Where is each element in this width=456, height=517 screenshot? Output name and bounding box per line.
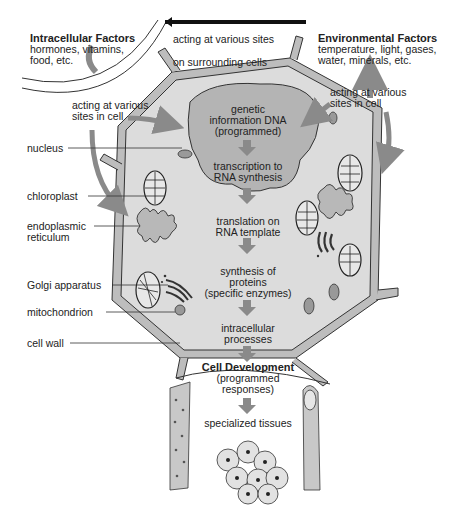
label-chloroplast: chloroplast: [27, 191, 78, 202]
step-synthesis-line3: (specific enzymes): [205, 288, 292, 299]
chloroplast-right-2: [296, 201, 318, 235]
top-arrow: [165, 17, 306, 27]
parenchyma-cells: [217, 441, 288, 504]
right-arrow-down: [386, 112, 389, 160]
label-nucleus: nucleus: [27, 143, 63, 154]
elongated-tissue-left: [170, 382, 190, 490]
step-dna-line3: (programmed): [215, 126, 282, 137]
wall-extension-topright: [290, 36, 303, 60]
chloroplast-lower-left: [136, 272, 160, 308]
mitochondrion-right-2: [329, 284, 339, 300]
mitochondrion-left: [175, 305, 185, 315]
mitochondrion-right-1: [329, 112, 337, 124]
flow-arrow-6: [238, 398, 256, 414]
top-arrow-label-below: on surrounding cells: [173, 57, 267, 68]
elongated-tissue-right: [303, 385, 320, 490]
chloroplast-right: [338, 155, 362, 191]
label-mitochondrion: mitochondrion: [27, 307, 93, 318]
label-golgi: Golgi apparatus: [27, 280, 101, 291]
mitochondrion-right-3: [304, 298, 314, 314]
intracellular-factors-line2: food, etc.: [30, 55, 73, 66]
wall-extension-right: [376, 288, 398, 300]
specialized-tissues-label: specialized tissues: [204, 418, 292, 429]
mitochondrion-top: [178, 150, 192, 158]
chloroplast-right-3: [339, 244, 361, 276]
environmental-factors-line2: water, minerals, etc.: [318, 55, 411, 66]
step-transcription-line2: RNA synthesis: [214, 172, 282, 183]
label-cell-wall: cell wall: [27, 338, 64, 349]
top-arrow-label-above: acting at various sites: [173, 34, 274, 45]
right-action-line2: sites in cell: [330, 98, 381, 109]
chloroplast-left: [144, 171, 166, 205]
step-intracellular-line2: processes: [224, 334, 272, 345]
left-action-line2: sites in cell: [72, 111, 123, 122]
label-reticulum: reticulum: [27, 232, 70, 243]
diagram-graphics: [0, 0, 456, 517]
step-translation-line2: RNA template: [216, 227, 281, 238]
cell-development-line2: responses): [222, 384, 274, 395]
